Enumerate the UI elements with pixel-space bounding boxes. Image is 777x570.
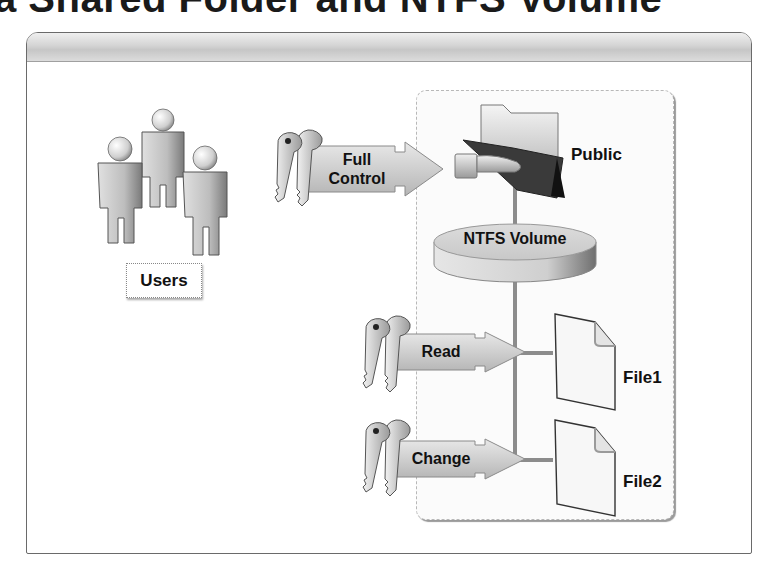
user-figure	[183, 146, 227, 255]
slide-title: a Shared Folder and NTFS Volume	[0, 0, 662, 21]
users-group-icon	[90, 110, 240, 265]
shared-folder-icon	[455, 100, 575, 190]
users-label: Users	[126, 263, 202, 298]
read-label: Read	[408, 342, 474, 361]
keys-icon	[270, 132, 322, 212]
public-folder-label: Public	[571, 145, 622, 165]
file-icon	[553, 418, 617, 518]
ntfs-volume-label: NTFS Volume	[432, 230, 598, 248]
full-control-label-line1: Full	[322, 150, 392, 169]
frame-header-band	[27, 33, 751, 62]
file1-label: File1	[623, 368, 662, 388]
user-figure	[98, 137, 142, 243]
keys-icon	[358, 422, 410, 502]
keys-icon	[358, 318, 410, 398]
user-figure	[142, 109, 184, 207]
full-control-label-line2: Control	[322, 169, 392, 188]
file2-label: File2	[623, 472, 662, 492]
change-label: Change	[404, 449, 478, 468]
file-icon	[553, 312, 617, 412]
